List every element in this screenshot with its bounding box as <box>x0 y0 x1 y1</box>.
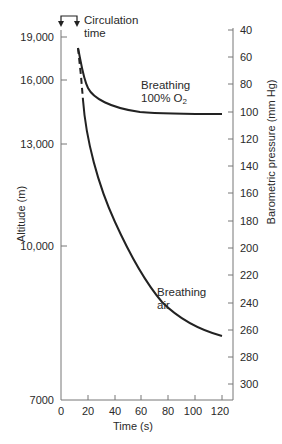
y-right-tick: 100 <box>240 106 258 118</box>
air-label-line1: Breathing <box>157 286 206 299</box>
y-right-tick: 180 <box>240 215 258 227</box>
y-right-tick: 240 <box>240 297 258 309</box>
y-right-tick: 280 <box>240 351 258 363</box>
x-ticks <box>88 395 222 400</box>
y-right-tick: 80 <box>240 78 252 90</box>
altitude-pressure-chart: 19,000 16,000 13,000 10,000 7000 40 60 8… <box>0 0 282 444</box>
circulation-label-line2: time <box>84 27 138 40</box>
y-left-tick-10000: 10,000 <box>6 240 54 252</box>
x-tick: 120 <box>208 405 232 417</box>
y-left-tick-19000: 19,000 <box>6 31 54 43</box>
circulation-label-line1: Circulation <box>84 14 138 27</box>
x-tick: 80 <box>156 405 180 417</box>
y-right-tick: 160 <box>240 187 258 199</box>
circulation-time-label: Circulation time <box>84 14 138 40</box>
y-right-tick: 40 <box>240 24 252 36</box>
x-tick: 0 <box>49 405 73 417</box>
y-right-tick: 200 <box>240 242 258 254</box>
o2-label-line1: Breathing <box>141 79 190 92</box>
y-right-tick: 120 <box>240 133 258 145</box>
x-tick: 60 <box>129 405 153 417</box>
x-tick: 40 <box>103 405 127 417</box>
left-ticks <box>61 37 67 246</box>
y-left-tick-7000: 7000 <box>6 394 54 406</box>
x-tick: 100 <box>181 405 205 417</box>
y-right-axis-title: Barometric pressure (mm Hg) <box>265 77 277 227</box>
y-left-tick-16000: 16,000 <box>6 74 54 86</box>
o2-label: Breathing 100% O2 <box>141 79 190 108</box>
y-right-tick: 220 <box>240 269 258 281</box>
o2-label-prefix: 100% O <box>141 92 183 104</box>
arrow-down-icon <box>58 21 64 27</box>
o2-subscript: 2 <box>183 97 187 106</box>
x-tick: 20 <box>76 405 100 417</box>
air-label-line2: air <box>157 299 206 312</box>
y-right-tick: 140 <box>240 160 258 172</box>
air-label: Breathing air <box>157 286 206 312</box>
arrow-down-icon <box>74 21 80 27</box>
x-axis-title: Time (s) <box>113 420 153 432</box>
y-right-tick: 60 <box>240 51 252 63</box>
o2-label-line2: 100% O2 <box>141 92 190 108</box>
y-left-axis-title: Altitude (m) <box>15 184 27 244</box>
y-right-tick: 300 <box>240 378 258 390</box>
y-right-tick: 260 <box>240 324 258 336</box>
y-left-tick-13000: 13,000 <box>6 138 54 150</box>
right-ticks <box>228 30 233 384</box>
